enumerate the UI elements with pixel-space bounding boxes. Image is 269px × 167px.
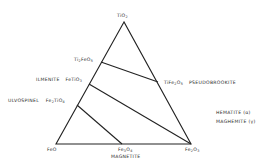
s2: 5: [181, 82, 183, 86]
label-ulvospinel: ULVOSPINEL Fe2TiO4: [8, 99, 65, 104]
s2: 4: [130, 149, 132, 153]
label-ilmenite: ILMENITE FeTiO3: [36, 78, 82, 83]
s2: 5: [91, 59, 93, 63]
ilmenite-name: ILMENITE: [36, 77, 60, 82]
label-pseudobrookite: TiFe2O5 PSEUDOBROOKITE: [164, 81, 236, 86]
s2: 3: [197, 149, 199, 153]
label-fe2o3: Fe2O3: [185, 148, 200, 153]
tio2-sub: 2: [125, 15, 127, 19]
s1: 3: [80, 79, 82, 83]
pseudobrookite-formula: TiFe2O5: [164, 80, 183, 85]
label-magnetite-name: MAGNETITE: [111, 155, 141, 160]
ulvospinel-name: ULVOSPINEL: [8, 98, 39, 103]
ilmenite-formula: FeTiO3: [65, 77, 82, 82]
label-hematite: HEMATITE (α): [216, 111, 251, 116]
pseudobrookite-name: PSEUDOBROOKITE: [189, 80, 236, 85]
s2: 4: [63, 100, 65, 104]
label-feo: FeO: [47, 148, 57, 153]
label-ti2feo5: Ti2FeO5: [74, 58, 93, 63]
t1: TiFe: [164, 80, 174, 85]
label-tio2: TiO2: [117, 14, 128, 19]
t1: FeTiO: [65, 77, 79, 82]
tie-line-ulvospinel-magnetite: [77, 105, 122, 144]
t2: FeO: [81, 57, 91, 62]
label-magnetite-formula: Fe3O4: [118, 148, 133, 153]
ulvospinel-formula: Fe2TiO4: [46, 98, 65, 103]
t2: TiO: [54, 98, 62, 103]
tie-line-ilmenite-hematite: [89, 84, 191, 144]
tie-line-ti2feo5-tife2o5: [101, 62, 158, 82]
label-maghemite: MAGHEMITE (γ): [216, 120, 256, 125]
